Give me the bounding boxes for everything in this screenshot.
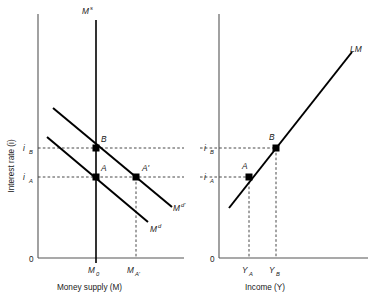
xtick-m-0-sub: 0 bbox=[96, 271, 100, 277]
panel-lm-curve: B A i B i A 0 Y A Y B LM bbox=[200, 14, 368, 292]
point-a-prime-label: A' bbox=[141, 163, 150, 173]
lm-ytick-i-a-base: i bbox=[204, 173, 206, 182]
ytick-i-a-sub: A bbox=[28, 178, 33, 184]
lm-point-b-label: B bbox=[269, 132, 275, 142]
ytick-i-b-sub: B bbox=[29, 149, 33, 155]
lm-ytick-i-a-sub: A bbox=[209, 178, 214, 184]
money-market-xtick-m-0: M 0 bbox=[88, 266, 100, 277]
lm-ytick-i-a: i A bbox=[204, 173, 214, 184]
money-supply-curve-label: M s bbox=[82, 5, 93, 16]
lm-curve-label: LM bbox=[350, 44, 362, 54]
point-b-marker bbox=[93, 145, 100, 152]
xtick-y-a-sub: A bbox=[248, 271, 253, 277]
lm-point-a-label: A bbox=[241, 161, 248, 171]
lm-origin-label: 0 bbox=[210, 255, 215, 264]
lm-x-axis-title: Income (Y) bbox=[245, 283, 285, 292]
economics-diagram: B A A' i B i A 0 M 0 M A' bbox=[0, 0, 377, 300]
lm-xtick-y-b: Y B bbox=[269, 266, 280, 277]
money-demand-label-base: M bbox=[150, 224, 157, 234]
money-demand-label-sup: d bbox=[158, 223, 162, 229]
ytick-i-b-base: i bbox=[23, 144, 25, 153]
ytick-i-a-base: i bbox=[23, 173, 25, 182]
money-market-ytick-i-a: i A bbox=[23, 173, 33, 184]
lm-ytick-i-b-sub: B bbox=[210, 149, 214, 155]
point-a-prime-marker bbox=[133, 174, 140, 181]
lm-ytick-i-b-base: i bbox=[204, 144, 206, 153]
lm-point-b-marker bbox=[273, 145, 280, 152]
xtick-m-0-base: M bbox=[88, 266, 95, 275]
point-b-label: B bbox=[101, 134, 107, 144]
money-demand-curve-label: M d bbox=[150, 223, 162, 234]
xtick-y-b-sub: B bbox=[276, 271, 280, 277]
xtick-m-a-prime-sub: A' bbox=[134, 271, 141, 277]
money-demand-shifted-label-sup: d' bbox=[181, 202, 186, 208]
point-a-label: A bbox=[100, 163, 107, 173]
money-demand-shifted-label-base: M bbox=[173, 203, 180, 213]
point-a-marker bbox=[93, 174, 100, 181]
money-supply-label-sup: s bbox=[90, 5, 93, 11]
money-market-origin-label: 0 bbox=[29, 255, 34, 264]
xtick-y-a-base: Y bbox=[242, 266, 248, 275]
money-market-y-axis-title: Interest rate (i) bbox=[7, 139, 16, 193]
panel-money-market: B A A' i B i A 0 M 0 M A' bbox=[7, 5, 186, 292]
money-market-ytick-i-b: i B bbox=[23, 144, 33, 155]
money-demand-shifted-curve-label: M d' bbox=[173, 202, 186, 213]
lm-curve bbox=[229, 52, 352, 208]
lm-xtick-y-a: Y A bbox=[242, 266, 253, 277]
lm-ytick-i-b: i B bbox=[204, 144, 214, 155]
lm-point-a-marker bbox=[246, 174, 253, 181]
xtick-m-a-prime-base: M bbox=[127, 266, 134, 275]
money-market-x-axis-title: Money supply (M) bbox=[57, 283, 122, 292]
money-supply-label-base: M bbox=[82, 6, 89, 16]
money-market-xtick-m-a-prime: M A' bbox=[127, 266, 141, 277]
figure-root: B A A' i B i A 0 M 0 M A' bbox=[0, 0, 377, 300]
xtick-y-b-base: Y bbox=[269, 266, 275, 275]
